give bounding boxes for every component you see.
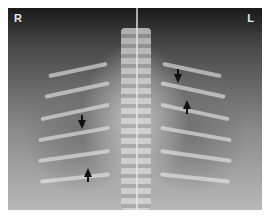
left-side-label: L <box>247 12 254 24</box>
rib <box>48 62 108 78</box>
rib <box>162 62 222 78</box>
rib <box>160 81 225 99</box>
arrow-up-icon <box>183 100 191 109</box>
rib <box>160 103 229 121</box>
right-side-label: R <box>14 12 22 24</box>
arrow-down-icon <box>174 74 182 83</box>
arrow-up-icon <box>84 168 92 177</box>
chest-xray-image: R L <box>8 8 262 210</box>
rib <box>44 81 109 99</box>
rib <box>160 172 230 183</box>
rib <box>38 149 110 163</box>
rib <box>160 126 232 142</box>
rib <box>40 172 110 183</box>
line-tube <box>136 8 138 210</box>
arrow-down-icon <box>78 120 86 129</box>
rib <box>160 149 232 163</box>
rib <box>40 103 109 121</box>
rib <box>38 126 110 142</box>
